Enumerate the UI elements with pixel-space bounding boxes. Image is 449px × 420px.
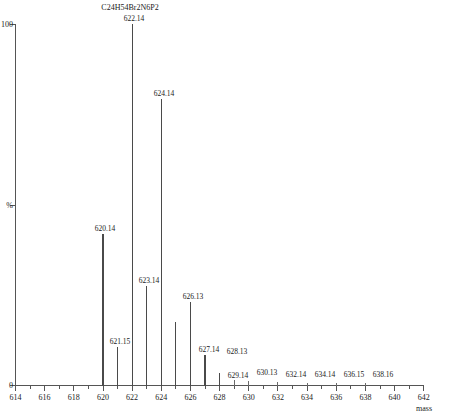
peak-label-638: 638.16 bbox=[373, 370, 394, 379]
peak-label-630: 630.13 bbox=[257, 368, 278, 377]
x-tick-label-622: 622 bbox=[126, 393, 138, 402]
x-tick-label-626: 626 bbox=[184, 393, 196, 402]
peak-label-632: 632.14 bbox=[286, 370, 307, 379]
x-tick-label-634: 634 bbox=[301, 393, 313, 402]
x-tick-label-638: 638 bbox=[359, 393, 371, 402]
x-axis-ticks bbox=[16, 386, 424, 392]
x-tick-label-640: 640 bbox=[389, 393, 401, 402]
peak-label-624: 624.14 bbox=[154, 89, 175, 98]
y-axis-label-percent: % bbox=[6, 201, 13, 210]
peak-label-628: 628.13 bbox=[227, 347, 248, 356]
x-tick-label-624: 624 bbox=[155, 393, 167, 402]
x-tick-label-620: 620 bbox=[97, 393, 109, 402]
molecular-formula-annotation: C24H54Br2N6P2 bbox=[101, 3, 158, 12]
x-tick-label-630: 630 bbox=[243, 393, 255, 402]
peak-label-629: 629.14 bbox=[228, 371, 249, 380]
peak-label-634: 634.14 bbox=[315, 370, 336, 379]
peak-series bbox=[103, 24, 365, 386]
peak-label-627: 627.14 bbox=[199, 345, 220, 354]
x-tick-label-628: 628 bbox=[214, 393, 226, 402]
x-axis-tick-labels: 614 616 618 620 622 624 626 628 630 632 … bbox=[10, 393, 430, 402]
peak-labels: 620.14 621.15 622.14 623.14 624.14 626.1… bbox=[95, 14, 394, 380]
peak-label-622: 622.14 bbox=[124, 14, 145, 23]
peak-label-620: 620.14 bbox=[95, 224, 116, 233]
x-tick-label-632: 632 bbox=[272, 393, 284, 402]
y-axis-label-100: 100 bbox=[1, 20, 13, 29]
peak-label-623: 623.14 bbox=[139, 276, 160, 285]
x-tick-label-636: 636 bbox=[330, 393, 342, 402]
x-axis-title: mass bbox=[416, 404, 432, 413]
x-tick-label-614: 614 bbox=[10, 393, 22, 402]
x-tick-label-618: 618 bbox=[68, 393, 80, 402]
mass-spectrum-chart: 100 % 0 614 616 bbox=[0, 0, 449, 420]
peak-label-626: 626.13 bbox=[183, 292, 204, 301]
peak-label-621: 621.15 bbox=[110, 337, 131, 346]
x-tick-label-642: 642 bbox=[418, 393, 430, 402]
y-axis-label-0: 0 bbox=[9, 381, 13, 390]
peak-label-636: 636.15 bbox=[344, 370, 365, 379]
x-tick-label-616: 616 bbox=[39, 393, 51, 402]
